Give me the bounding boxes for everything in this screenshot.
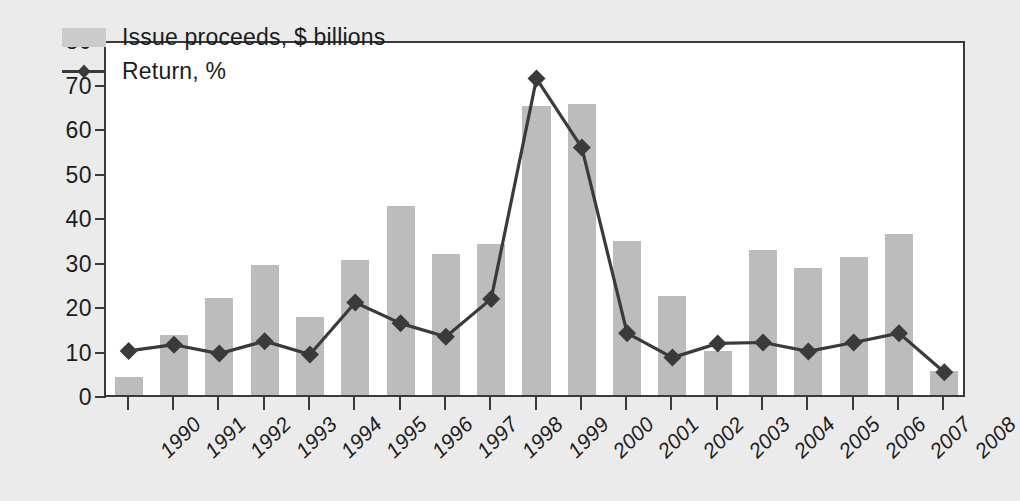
- x-tick-label-1994: 1994: [336, 412, 387, 463]
- chart-legend: Issue proceeds, $ billions Return, %: [62, 20, 392, 88]
- x-tick-mark-1998: [489, 397, 491, 410]
- x-tick-label-1998: 1998: [517, 412, 568, 463]
- y-tick-label-0: 0: [79, 384, 92, 411]
- x-tick-mark-2004: [761, 397, 763, 410]
- x-tick-mark-1992: [217, 397, 219, 410]
- y-tick-label-30: 30: [65, 250, 92, 277]
- x-tick-label-2007: 2007: [925, 412, 976, 463]
- x-tick-label-2003: 2003: [744, 412, 795, 463]
- x-tick-mark-2000: [580, 397, 582, 410]
- return-line-series: [106, 43, 967, 399]
- legend-label-issue-proceeds: Issue proceeds, $ billions: [122, 24, 385, 51]
- x-tick-label-1996: 1996: [427, 412, 478, 463]
- return-line-path: [129, 79, 945, 373]
- legend-item-issue-proceeds: Issue proceeds, $ billions: [62, 20, 392, 54]
- x-tick-mark-1997: [444, 397, 446, 410]
- x-tick-label-2006: 2006: [880, 412, 931, 463]
- x-tick-label-1995: 1995: [381, 412, 432, 463]
- x-tick-label-1997: 1997: [472, 412, 523, 463]
- return-marker-1999: [528, 70, 546, 88]
- x-tick-label-1999: 1999: [563, 412, 614, 463]
- x-tick-mark-1999: [535, 397, 537, 410]
- x-tick-mark-1991: [172, 397, 174, 410]
- return-marker-2001: [618, 324, 636, 342]
- y-tick-label-50: 50: [65, 161, 92, 188]
- return-marker-2006: [845, 333, 863, 351]
- x-tick-mark-1996: [399, 397, 401, 410]
- return-marker-2000: [573, 139, 591, 157]
- x-tick-mark-1993: [263, 397, 265, 410]
- x-tick-label-1990: 1990: [155, 412, 206, 463]
- plot-area: [106, 43, 963, 395]
- y-tick-label-20: 20: [65, 295, 92, 322]
- x-tick-label-1991: 1991: [200, 412, 251, 463]
- x-tick-mark-2003: [716, 397, 718, 410]
- x-tick-mark-1994: [308, 397, 310, 410]
- x-tick-label-2001: 2001: [653, 412, 704, 463]
- legend-label-return: Return, %: [122, 58, 226, 85]
- x-tick-mark-2006: [852, 397, 854, 410]
- return-marker-1992: [210, 345, 228, 363]
- y-tick-label-10: 10: [65, 339, 92, 366]
- x-tick-label-2008: 2008: [970, 412, 1020, 463]
- x-tick-mark-2002: [670, 397, 672, 410]
- x-tick-mark-1990: [127, 397, 129, 410]
- legend-swatch-icon: [62, 28, 106, 47]
- x-tick-label-1993: 1993: [291, 412, 342, 463]
- return-marker-2004: [754, 333, 772, 351]
- return-marker-1993: [256, 332, 274, 350]
- x-tick-label-2002: 2002: [698, 412, 749, 463]
- x-axis-ticks: [104, 397, 965, 411]
- x-axis: 1990199119921993199419951996199719981999…: [104, 412, 984, 492]
- legend-line-diamond-icon: [62, 62, 106, 81]
- x-tick-label-2004: 2004: [789, 412, 840, 463]
- return-marker-1996: [392, 314, 410, 332]
- x-tick-mark-2007: [897, 397, 899, 410]
- y-tick-label-60: 60: [65, 117, 92, 144]
- return-marker-2002: [663, 349, 681, 367]
- x-tick-mark-2001: [625, 397, 627, 410]
- x-tick-mark-1995: [353, 397, 355, 410]
- plot-frame: [104, 41, 965, 397]
- return-marker-1991: [165, 336, 183, 354]
- return-marker-1990: [120, 342, 138, 360]
- y-axis: 01020304050607080: [0, 41, 92, 397]
- y-tick-label-40: 40: [65, 206, 92, 233]
- x-tick-label-1992: 1992: [245, 412, 296, 463]
- x-tick-label-2000: 2000: [608, 412, 659, 463]
- legend-item-return: Return, %: [62, 54, 392, 88]
- return-marker-2005: [799, 342, 817, 360]
- x-tick-label-2005: 2005: [834, 412, 885, 463]
- x-tick-mark-2008: [942, 397, 944, 410]
- x-tick-mark-2005: [806, 397, 808, 410]
- return-marker-2003: [709, 334, 727, 352]
